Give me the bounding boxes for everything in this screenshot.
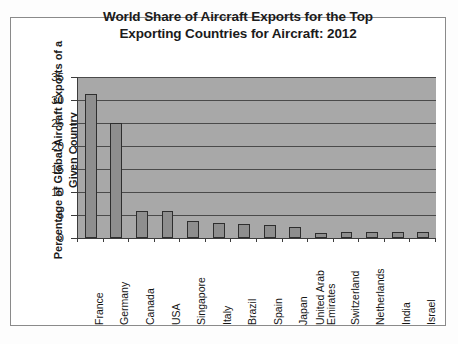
- chart-title: World Share of Aircraft Exports for the …: [46, 8, 430, 42]
- x-category-label: United ArabEmirates: [315, 270, 337, 325]
- x-tick-mark: [230, 238, 231, 242]
- x-category-label: Japan: [298, 296, 309, 325]
- x-category-label: Germany: [119, 282, 130, 325]
- bar-series: [78, 77, 436, 238]
- x-axis-category-labels: FranceGermanyCanadaUSASingaporeItalyBraz…: [77, 243, 437, 328]
- y-tick-label: 35: [18, 72, 64, 82]
- x-category-label-line: Japan: [298, 296, 309, 325]
- x-category-label-line: Canada: [145, 288, 156, 325]
- x-tick-mark: [179, 238, 180, 242]
- x-category-label: USA: [171, 303, 182, 325]
- plot-area: [77, 77, 436, 239]
- x-tick-mark: [384, 238, 385, 242]
- y-tick-label: 20: [18, 141, 64, 151]
- x-category-label-line: Israel: [426, 299, 437, 325]
- bar: [85, 94, 97, 238]
- x-tick-mark: [205, 238, 206, 242]
- x-category-label: France: [94, 292, 105, 325]
- x-category-label: Netherlands: [375, 268, 386, 325]
- x-tick-mark: [154, 238, 155, 242]
- x-tick-mark: [128, 238, 129, 242]
- x-tick-mark: [358, 238, 359, 242]
- chart-title-line-1: World Share of Aircraft Exports for the …: [46, 8, 430, 25]
- bar: [238, 224, 250, 238]
- x-category-label: Canada: [145, 288, 156, 325]
- x-category-label: India: [401, 302, 412, 325]
- chart-figure: World Share of Aircraft Exports for the …: [0, 0, 458, 344]
- bar: [136, 211, 148, 238]
- x-tick-mark: [77, 238, 78, 242]
- chart-title-line-2: Exporting Countries for Aircraft: 2012: [46, 25, 430, 42]
- y-tick-label: 5: [18, 210, 64, 220]
- x-category-label: Switzerland: [350, 271, 361, 325]
- y-tick-label: 10: [18, 187, 64, 197]
- x-tick-mark: [333, 238, 334, 242]
- x-tick-mark: [282, 238, 283, 242]
- x-category-label-line: France: [94, 292, 105, 325]
- x-category-label-line: Singapore: [196, 277, 207, 325]
- x-tick-mark: [409, 238, 410, 242]
- x-category-label-line: Netherlands: [375, 268, 386, 325]
- x-category-label: Italy: [222, 306, 233, 325]
- x-category-label-line: USA: [171, 303, 182, 325]
- x-category-label-line: Emirates: [326, 270, 337, 325]
- x-category-label-line: Switzerland: [350, 271, 361, 325]
- x-tick-mark: [103, 238, 104, 242]
- bar: [264, 225, 276, 238]
- y-tick-label: 30: [18, 95, 64, 105]
- x-category-label-line: India: [401, 302, 412, 325]
- bar: [213, 223, 225, 238]
- x-category-label: Singapore: [196, 277, 207, 325]
- y-tick-label: 0: [18, 233, 64, 243]
- x-category-label-line: Italy: [222, 306, 233, 325]
- x-category-label-line: Brazil: [247, 299, 258, 325]
- bar: [289, 227, 301, 238]
- bar: [187, 221, 199, 238]
- bar: [110, 123, 122, 238]
- x-category-label: Israel: [426, 299, 437, 325]
- x-category-label-line: Germany: [119, 282, 130, 325]
- y-tick-label: 25: [18, 118, 64, 128]
- x-tick-mark: [435, 238, 436, 242]
- bar: [162, 211, 174, 238]
- x-tick-mark: [256, 238, 257, 242]
- x-tick-mark: [307, 238, 308, 242]
- x-category-label: Brazil: [247, 299, 258, 325]
- y-tick-label: 15: [18, 164, 64, 174]
- y-axis-ticks: 05101520253035: [0, 0, 77, 344]
- x-category-label: Spain: [273, 298, 284, 325]
- x-category-label-line: Spain: [273, 298, 284, 325]
